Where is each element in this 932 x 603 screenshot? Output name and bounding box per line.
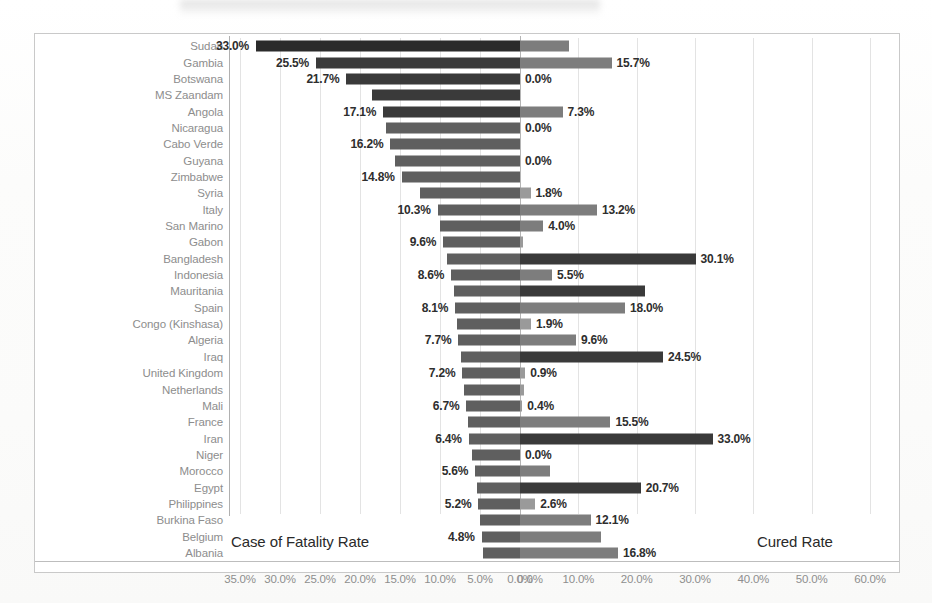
- bar-case-fatality-rate: [464, 384, 520, 395]
- bar-cured-rate: [520, 286, 645, 297]
- bar-cured-rate: [520, 368, 525, 379]
- category-label: France: [188, 416, 223, 428]
- chart-row: United Kingdom7.2%0.9%: [35, 365, 899, 381]
- category-label: San Marino: [165, 220, 223, 232]
- data-label-cured-rate: 15.7%: [617, 56, 650, 70]
- chart-row: Italy10.3%13.2%: [35, 202, 899, 218]
- bar-cured-rate: [520, 270, 552, 281]
- category-label: Egypt: [194, 482, 223, 494]
- axis-tick-right: 40.0%: [738, 573, 770, 585]
- bar-cured-rate: [520, 400, 522, 411]
- category-label: Angola: [188, 106, 223, 118]
- bar-cured-rate: [520, 319, 531, 330]
- bar-cured-rate: [520, 531, 601, 542]
- data-label-case-fatality-rate: 33.0%: [216, 39, 249, 53]
- category-label: Albania: [185, 547, 223, 559]
- chart-row: Zimbabwe14.8%: [35, 169, 899, 185]
- data-label-case-fatality-rate: 9.6%: [410, 235, 437, 249]
- data-label-cured-rate: 16.8%: [623, 546, 656, 560]
- bar-case-fatality-rate: [451, 270, 520, 281]
- data-label-cured-rate: 5.5%: [557, 268, 584, 282]
- category-label: Botswana: [173, 73, 223, 85]
- bar-case-fatality-rate: [458, 335, 520, 346]
- bar-case-fatality-rate: [462, 368, 520, 379]
- bar-case-fatality-rate: [475, 466, 520, 477]
- data-label-case-fatality-rate: 10.3%: [398, 203, 431, 217]
- chart-row: Cabo Verde16.2%: [35, 136, 899, 152]
- bar-cured-rate: [520, 384, 524, 395]
- bar-case-fatality-rate: [383, 106, 520, 117]
- chart-row: San Marino4.0%: [35, 218, 899, 234]
- axis-tick-left: 15.0%: [384, 573, 416, 585]
- data-label-cured-rate: 2.6%: [540, 497, 567, 511]
- data-label-cured-rate: 4.0%: [548, 219, 575, 233]
- bar-case-fatality-rate: [447, 253, 520, 264]
- bar-cured-rate: [520, 204, 597, 215]
- bar-case-fatality-rate: [457, 319, 520, 330]
- data-label-cured-rate: 0.4%: [527, 399, 554, 413]
- annotation-case-fatality-rate: Case of Fatality Rate: [231, 533, 369, 550]
- data-label-case-fatality-rate: 21.7%: [306, 72, 339, 86]
- bar-case-fatality-rate: [372, 90, 520, 101]
- chart-row: Congo (Kinshasa)1.9%: [35, 316, 899, 332]
- category-label: Indonesia: [174, 269, 223, 281]
- data-label-cured-rate: 24.5%: [668, 350, 701, 364]
- category-label: Morocco: [180, 465, 223, 477]
- category-label: Mauritania: [170, 285, 223, 297]
- chart-row: Gambia25.5%15.7%: [35, 54, 899, 70]
- bar-case-fatality-rate: [480, 515, 520, 526]
- axis-tick-right: 0.0%: [517, 573, 542, 585]
- chart-row: Morocco5.6%: [35, 463, 899, 479]
- category-label: Belgium: [182, 531, 223, 543]
- category-label: Iran: [204, 433, 223, 445]
- annotation-cured-rate: Cured Rate: [757, 533, 833, 550]
- data-label-case-fatality-rate: 7.2%: [429, 366, 456, 380]
- chart-row: Mali6.7%0.4%: [35, 398, 899, 414]
- chart-row: Iran6.4%33.0%: [35, 430, 899, 446]
- bar-case-fatality-rate: [483, 548, 520, 559]
- chart-row: Burkina Faso12.1%: [35, 512, 899, 528]
- chart-row: Gabon9.6%: [35, 234, 899, 250]
- axis-tick-left: 20.0%: [344, 573, 376, 585]
- bar-case-fatality-rate: [454, 286, 520, 297]
- bar-case-fatality-rate: [390, 139, 520, 150]
- data-label-cured-rate: 20.7%: [646, 481, 679, 495]
- category-label: Cabo Verde: [163, 138, 223, 150]
- axis-tick-left: 25.0%: [304, 573, 336, 585]
- bar-case-fatality-rate: [466, 400, 520, 411]
- bar-cured-rate: [520, 41, 569, 52]
- data-label-case-fatality-rate: 8.1%: [422, 301, 449, 315]
- category-label: Zimbabwe: [171, 171, 223, 183]
- chart-row: Nicaragua0.0%: [35, 120, 899, 136]
- data-label-cured-rate: 18.0%: [630, 301, 663, 315]
- bar-cured-rate: [520, 417, 610, 428]
- data-label-cured-rate: 9.6%: [581, 333, 608, 347]
- data-label-case-fatality-rate: 5.2%: [445, 497, 472, 511]
- bar-cured-rate: [520, 351, 663, 362]
- axis-tick-left: 35.0%: [224, 573, 256, 585]
- category-label: United Kingdom: [143, 367, 223, 379]
- bar-cured-rate: [520, 253, 696, 264]
- bar-cured-rate: [520, 57, 612, 68]
- category-label: Spain: [194, 302, 223, 314]
- chart-row: Niger0.0%: [35, 447, 899, 463]
- category-label: Iraq: [204, 351, 223, 363]
- data-label-cured-rate: 0.9%: [530, 366, 557, 380]
- axis-tick-left: 10.0%: [424, 573, 456, 585]
- category-label: MS Zaandam: [155, 89, 223, 101]
- category-label: Niger: [196, 449, 223, 461]
- chart-row: Philippines5.2%2.6%: [35, 496, 899, 512]
- bar-case-fatality-rate: [482, 531, 520, 542]
- data-label-cured-rate: 1.8%: [536, 186, 563, 200]
- data-label-case-fatality-rate: 16.2%: [350, 137, 383, 151]
- chart-row: Angola17.1%7.3%: [35, 103, 899, 119]
- bar-case-fatality-rate: [402, 171, 520, 182]
- bar-cured-rate: [520, 548, 618, 559]
- data-label-cured-rate: 13.2%: [602, 203, 635, 217]
- chart-row: Botswana21.7%0.0%: [35, 71, 899, 87]
- data-label-case-fatality-rate: 5.6%: [442, 464, 469, 478]
- axis-tick-right: 20.0%: [621, 573, 653, 585]
- chart-row: Spain8.1%18.0%: [35, 300, 899, 316]
- data-label-case-fatality-rate: 6.4%: [435, 432, 462, 446]
- data-label-case-fatality-rate: 14.8%: [362, 170, 395, 184]
